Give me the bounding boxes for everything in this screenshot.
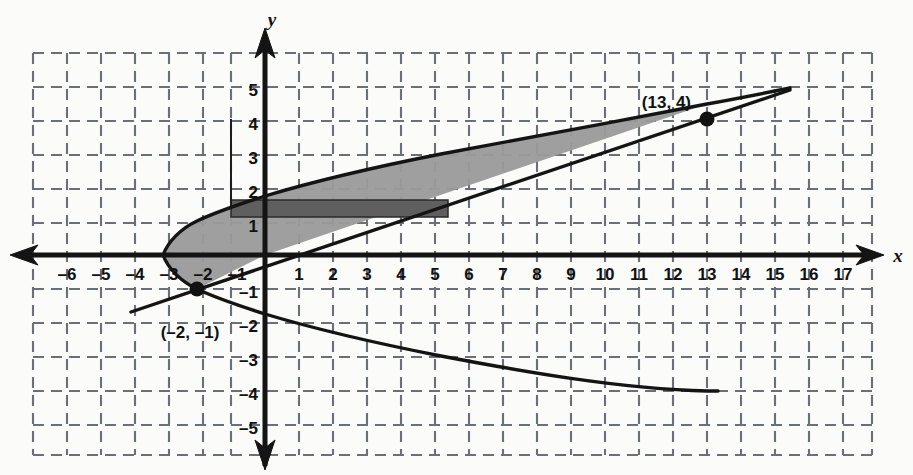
y-tick-label: 4 <box>249 115 259 134</box>
x-tick-label: 8 <box>532 265 541 284</box>
x-tick-label: 9 <box>566 265 575 284</box>
x-tick-label: –3 <box>160 265 179 284</box>
x-tick-label: –1 <box>228 265 247 284</box>
x-tick-label: 16 <box>800 265 819 284</box>
y-tick-label: –1 <box>239 283 258 302</box>
x-tick-label: 5 <box>430 265 439 284</box>
x-tick-label: 3 <box>362 265 371 284</box>
y-tick-label: –4 <box>239 385 258 404</box>
point-13-4-marker <box>700 112 715 127</box>
x-tick-label: 12 <box>664 265 683 284</box>
point-label-upper: (13, 4) <box>642 93 691 112</box>
x-tick-label: –2 <box>194 265 213 284</box>
x-tick-label: 14 <box>732 265 751 284</box>
x-tick-label: 6 <box>464 265 473 284</box>
x-tick-label: 7 <box>498 265 507 284</box>
x-axis-label: x <box>892 245 903 266</box>
y-axis-label: y <box>266 9 277 30</box>
y-tick-label: –3 <box>239 351 258 370</box>
y-tick-label: 2 <box>249 183 258 202</box>
x-tick-label: –6 <box>58 265 77 284</box>
y-tick-label: 1 <box>249 217 258 236</box>
x-tick-label: 1 <box>294 265 303 284</box>
y-tick-label: –2 <box>239 317 258 336</box>
y-tick-label: 3 <box>249 149 258 168</box>
x-tick-label: 4 <box>396 265 406 284</box>
y-tick-label: 5 <box>249 81 258 100</box>
x-tick-label: –5 <box>92 265 111 284</box>
x-tick-label: –4 <box>126 265 145 284</box>
graph-figure: –6 –5 –4 –3 –2 –1 1 2 3 4 5 6 7 8 9 10 1… <box>0 0 913 475</box>
x-tick-label: 17 <box>834 265 853 284</box>
x-tick-label: 15 <box>766 265 785 284</box>
point-label-lower: (–2, –1) <box>161 323 220 342</box>
coordinate-plane-svg: –6 –5 –4 –3 –2 –1 1 2 3 4 5 6 7 8 9 10 1… <box>0 0 913 475</box>
y-tick-label: –5 <box>239 419 258 438</box>
x-tick-label: 13 <box>698 265 717 284</box>
x-tick-label: 10 <box>596 265 615 284</box>
x-tick-label: 11 <box>630 265 648 284</box>
x-tick-label: 2 <box>328 265 337 284</box>
